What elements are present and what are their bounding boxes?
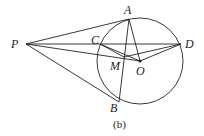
segments bbox=[26, 19, 181, 102]
label-B: B bbox=[110, 101, 118, 115]
diagram-canvas: PACDMOB (b) bbox=[0, 0, 204, 136]
segment-MD bbox=[124, 44, 181, 57]
geometry-figure: PACDMOB (b) bbox=[0, 0, 204, 136]
segment-OD bbox=[140, 44, 181, 61]
segment-PB bbox=[26, 44, 119, 102]
center-point-O bbox=[138, 59, 141, 62]
label-P: P bbox=[10, 37, 19, 51]
segment-CM bbox=[100, 44, 124, 57]
segment-PO bbox=[26, 44, 140, 61]
label-O: O bbox=[136, 64, 145, 78]
point-labels: PACDMOB bbox=[10, 3, 194, 115]
segment-PA bbox=[26, 19, 129, 44]
segment-AB bbox=[119, 19, 129, 102]
label-A: A bbox=[123, 3, 132, 17]
label-D: D bbox=[184, 37, 194, 51]
figure-caption: (b) bbox=[113, 118, 126, 131]
label-M: M bbox=[109, 59, 121, 73]
label-C: C bbox=[91, 33, 100, 47]
